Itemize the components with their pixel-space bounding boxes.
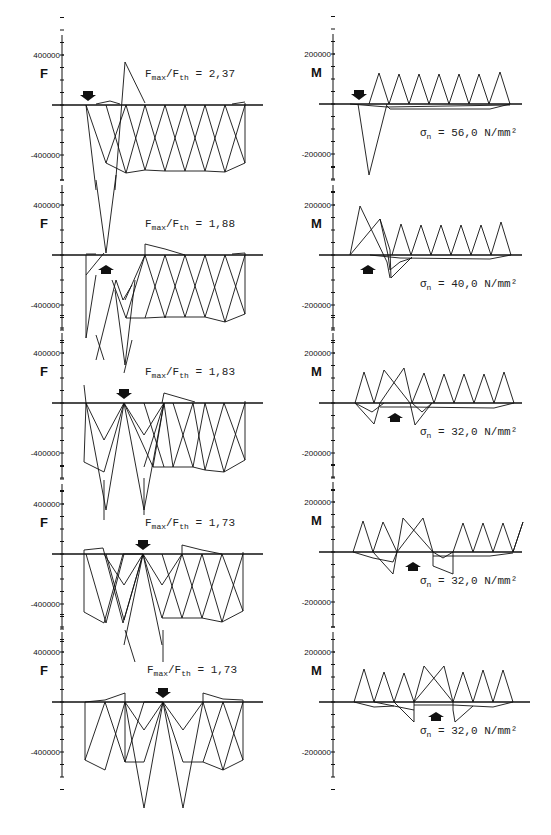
annotation-label: σn = 40,0 N/mm² <box>420 278 517 292</box>
load-path-line <box>222 554 243 611</box>
load-path-line <box>409 74 429 104</box>
y-tick-label-pos: 400000 <box>33 201 60 210</box>
panel-F-3: 400000-400000FFmax/Fth = 1,83 <box>31 316 263 511</box>
load-path-line <box>373 522 397 552</box>
y-axis-name: F <box>40 216 48 231</box>
figure-canvas: 400000-400000FFmax/Fth = 2,37200000-2000… <box>0 0 551 835</box>
y-tick-label-neg: -200000 <box>302 748 332 757</box>
load-path-line <box>353 552 397 562</box>
load-path-line <box>223 702 243 770</box>
panel-M-2: 200000-200000Mσn = 40,0 N/mm² <box>302 168 522 343</box>
load-path-line <box>394 702 414 722</box>
load-path-line <box>493 523 513 552</box>
load-path-line <box>355 403 380 424</box>
load-path-line <box>86 275 96 338</box>
y-tick-label-neg: -400000 <box>31 600 61 609</box>
load-path-line <box>86 403 124 510</box>
load-path-line <box>164 403 173 467</box>
load-path-line <box>374 672 394 702</box>
y-axis-name: F <box>40 66 48 81</box>
load-path-line <box>369 73 389 104</box>
load-arrow-up-icon <box>98 265 114 274</box>
annotation-label: σn = 32,0 N/mm² <box>420 725 517 739</box>
y-axis-name: F <box>40 364 48 379</box>
load-path-line <box>431 225 451 255</box>
panel-F-1: 400000-400000FFmax/Fth = 2,37 <box>31 18 263 193</box>
load-path-line <box>513 522 523 552</box>
y-tick-label-pos: 200000 <box>304 201 331 210</box>
annotation-label: Fmax/Fth = 1,73 <box>145 517 235 531</box>
load-path-line <box>491 222 511 255</box>
panel-M-1: 200000-200000Mσn = 56,0 N/mm² <box>302 17 522 192</box>
load-path-line <box>86 554 124 623</box>
y-tick-label-pos: 200000 <box>304 498 331 507</box>
load-path-line <box>96 101 120 104</box>
y-tick-label-neg: -400000 <box>31 151 61 160</box>
load-path-line <box>380 403 514 408</box>
panel-M-5: 200000-200000Mσn = 32,0 N/mm² <box>302 615 530 790</box>
load-path-line <box>353 521 373 552</box>
load-path-line <box>433 552 453 574</box>
load-path-line <box>414 666 453 702</box>
annotation-label: σn = 32,0 N/mm² <box>420 426 517 440</box>
annotation-label: Fmax/Fth = 1,73 <box>147 664 237 678</box>
load-path-line <box>124 554 143 645</box>
load-path-line <box>126 253 245 322</box>
load-path-line <box>115 280 135 365</box>
load-path-line <box>374 370 410 403</box>
load-arrow-down-icon <box>155 688 171 698</box>
y-axis-name: F <box>40 515 48 530</box>
y-tick-label-pos: 400000 <box>33 648 60 657</box>
panel-F-2: 400000-400000FFmax/Fth = 1,88 <box>31 168 263 366</box>
load-path-line <box>429 74 449 104</box>
load-path-line <box>126 255 145 318</box>
load-path-line <box>434 374 454 403</box>
load-path-line <box>453 523 473 552</box>
y-tick-label-pos: 400000 <box>33 349 60 358</box>
y-axis-name: M <box>311 216 322 231</box>
y-tick-label-neg: -400000 <box>31 301 61 310</box>
load-path-line <box>489 72 510 104</box>
annotation-label: Fmax/Fth = 2,37 <box>145 68 235 82</box>
load-path-line <box>143 554 162 645</box>
load-path-line <box>143 552 243 622</box>
y-tick-label-pos: 200000 <box>304 648 331 657</box>
load-path-line <box>373 552 397 574</box>
annotation-label: Fmax/Fth = 1,88 <box>145 218 235 232</box>
load-path-line <box>125 702 163 808</box>
load-arrow-up-icon <box>405 562 421 571</box>
load-path-line <box>433 552 453 558</box>
load-path-line <box>124 403 164 435</box>
load-path-line <box>222 554 243 622</box>
load-path-line <box>125 255 145 300</box>
load-path-line <box>85 702 105 760</box>
load-path-line <box>96 180 106 253</box>
load-path-line <box>380 219 412 278</box>
panel-F-5: 400000-400000FFmax/Fth = 1,73 <box>31 615 263 809</box>
y-tick-label-neg: -400000 <box>31 449 61 458</box>
y-tick-label-pos: 400000 <box>33 51 60 60</box>
load-path-line <box>86 105 96 190</box>
load-path-line <box>469 74 489 104</box>
load-path-line <box>106 175 116 253</box>
load-path-line <box>232 253 245 254</box>
load-path-line <box>354 669 374 702</box>
load-path-line <box>449 74 469 104</box>
load-path-line <box>389 74 409 104</box>
load-path-line <box>355 372 374 403</box>
load-arrow-up-icon <box>387 413 403 422</box>
load-path-line <box>471 225 491 255</box>
y-tick-label-pos: 200000 <box>304 50 331 59</box>
load-path-line <box>454 374 474 403</box>
load-arrow-up-icon <box>428 712 444 721</box>
y-tick-label-pos: 400000 <box>33 500 60 509</box>
load-path-line <box>203 693 243 702</box>
load-path-line <box>494 372 514 403</box>
y-tick-label-neg: -400000 <box>31 748 61 757</box>
load-path-line <box>125 630 135 662</box>
load-path-line <box>453 672 473 702</box>
load-path-line <box>473 523 493 552</box>
load-path-line <box>86 103 245 173</box>
load-arrow-down-icon <box>351 90 367 100</box>
annotation-label: σn = 32,0 N/mm² <box>420 575 517 589</box>
